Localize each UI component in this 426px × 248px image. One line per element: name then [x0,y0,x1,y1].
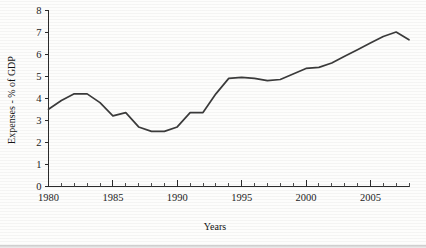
x-tick-label: 1995 [231,192,252,203]
y-tick-label: 3 [36,115,41,126]
y-tick-label: 0 [36,181,41,192]
x-tick-label: 1990 [167,192,188,203]
y-tick-label: 6 [36,49,41,60]
x-tick-labels: 198019851990199520002005 [38,192,381,203]
y-axis-group: 012345678 [36,5,48,193]
x-tick-marks-major [49,180,371,187]
y-tick-label: 5 [36,71,41,82]
y-tick-label: 7 [36,27,41,38]
x-tick-label: 2000 [296,192,317,203]
y-tick-label: 2 [36,137,41,148]
expenses-line-series [49,32,410,131]
line-chart: 012345678 198019851990199520002005 Years… [0,0,426,248]
chart-figure: 012345678 198019851990199520002005 Years… [0,0,426,248]
y-tick-label: 1 [36,159,41,170]
x-axis-title: Years [204,221,226,232]
x-tick-label: 1985 [102,192,123,203]
x-tick-label: 1980 [38,192,59,203]
y-tick-label: 8 [36,5,41,16]
y-tick-labels: 012345678 [36,5,42,193]
x-axis-group: 198019851990199520002005 [38,180,409,203]
x-tick-label: 2005 [360,192,381,203]
y-axis-title: Expenses - % of GDP [6,56,17,144]
y-tick-label: 4 [36,93,42,104]
